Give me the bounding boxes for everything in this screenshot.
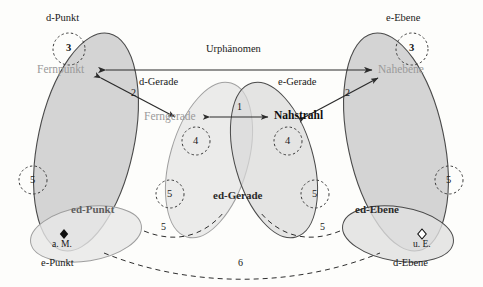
- diagram-canvas: d-Punkt e-Ebene d-Gerade e-Gerade e-Punk…: [0, 0, 483, 287]
- label-ring-4-left: 4: [193, 136, 198, 147]
- label-e-ebene: e-Ebene: [386, 13, 420, 24]
- label-nahstrahl: Nahstrahl: [274, 110, 323, 122]
- label-relation-6: 6: [238, 258, 243, 268]
- label-d-gerade: d-Gerade: [139, 77, 178, 88]
- label-fernpunkt: Fernpunkt: [37, 64, 84, 76]
- dashed-relation-arcs: [104, 212, 380, 279]
- label-ferngerade: Ferngerade: [144, 111, 196, 123]
- label-e-gerade: e-Gerade: [278, 77, 316, 88]
- label-ring-3-right: 3: [409, 43, 414, 54]
- label-ed-gerade: ed-Gerade: [213, 190, 262, 201]
- label-relation-2-left: 2: [131, 88, 136, 98]
- label-ed-ebene: ed-Ebene: [355, 204, 399, 215]
- label-ring-5-left-mid: 5: [167, 189, 172, 200]
- label-a-m: a. M.: [52, 240, 72, 250]
- label-e-punkt: e-Punkt: [41, 258, 74, 269]
- label-arc-5-left: 5: [161, 222, 166, 232]
- label-ring-3-left: 3: [66, 43, 71, 54]
- label-relation-2-right: 2: [345, 88, 350, 98]
- label-ed-punkt: ed-Punkt: [71, 204, 114, 215]
- label-urphaenomen: Urphänomen: [206, 44, 261, 55]
- label-relation-1: 1: [237, 102, 242, 112]
- label-ring-4-right: 4: [285, 136, 290, 147]
- label-d-ebene: d-Ebene: [393, 258, 428, 269]
- label-ring-5-far-left: 5: [30, 175, 35, 186]
- label-nahebene: Nahebene: [378, 64, 424, 76]
- label-arc-5-right: 5: [320, 222, 325, 232]
- label-d-punkt: d-Punkt: [46, 13, 79, 24]
- label-ring-5-right-mid: 5: [312, 189, 317, 200]
- label-u-e: u. E.: [413, 240, 431, 250]
- label-ring-5-far-right: 5: [446, 175, 451, 186]
